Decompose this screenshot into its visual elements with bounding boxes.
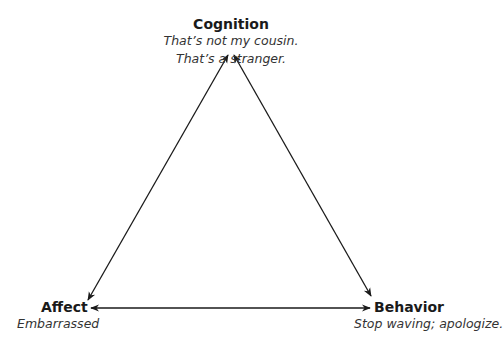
node-behavior-title: Behavior xyxy=(374,299,503,315)
node-cognition-title: Cognition xyxy=(0,16,462,32)
node-affect-title: Affect xyxy=(41,299,99,315)
node-behavior-line-1: Stop waving; apologize. xyxy=(354,316,503,331)
node-affect: Affect Embarrassed xyxy=(17,299,99,331)
node-affect-line-1: Embarrassed xyxy=(17,316,99,331)
node-cognition-line-2: That’s a stranger. xyxy=(0,51,462,66)
node-cognition-line-1: That’s not my cousin. xyxy=(0,33,462,48)
arrow-cognition-behavior xyxy=(234,55,371,296)
arrow-cognition-affect xyxy=(88,55,228,300)
node-behavior: Behavior Stop waving; apologize. xyxy=(354,299,503,331)
node-cognition: Cognition That’s not my cousin. That’s a… xyxy=(0,16,462,66)
